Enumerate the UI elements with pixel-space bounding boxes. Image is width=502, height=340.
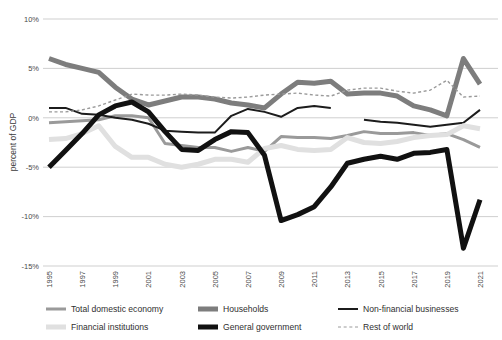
legend-swatch-icon bbox=[338, 303, 358, 315]
x-tick-label: 2021 bbox=[476, 271, 485, 288]
legend-label: Households bbox=[223, 304, 268, 314]
x-tick-label: 2019 bbox=[443, 271, 452, 288]
x-axis-tick-labels: 1995199719992001200320052007200920112013… bbox=[45, 271, 485, 288]
x-tick-label: 2001 bbox=[144, 271, 153, 288]
x-tick-label: 2007 bbox=[244, 271, 253, 288]
data-series-group bbox=[49, 59, 480, 249]
legend-item-financial-institutions[interactable]: Financial institutions bbox=[46, 318, 198, 336]
legend-label: General government bbox=[223, 322, 301, 332]
y-tick-label: -5% bbox=[26, 163, 40, 172]
legend-item-rest-of-world[interactable]: Rest of world bbox=[338, 318, 498, 336]
x-tick-label: 2013 bbox=[343, 271, 352, 288]
legend-item-households[interactable]: Households bbox=[198, 300, 338, 318]
y-tick-label: -10% bbox=[21, 212, 39, 221]
legend-label: Rest of world bbox=[363, 322, 413, 332]
x-tick-label: 2009 bbox=[277, 271, 286, 288]
legend-item-general-government[interactable]: General government bbox=[198, 318, 338, 336]
y-axis-title: percent of GDP bbox=[8, 112, 18, 171]
y-tick-label: 5% bbox=[28, 64, 39, 73]
y-tick-label: 10% bbox=[24, 15, 39, 24]
y-axis-title-text: percent of GDP bbox=[8, 112, 18, 171]
x-tick-label: 2005 bbox=[211, 271, 220, 288]
legend-label: Non-financial businesses bbox=[363, 304, 459, 314]
legend-swatch-icon bbox=[338, 321, 358, 333]
legend-row: Total domestic economyHouseholdsNon-fina… bbox=[46, 300, 498, 318]
legend-swatch-icon bbox=[46, 303, 66, 315]
x-tick-label: 1995 bbox=[45, 271, 54, 288]
y-tick-label: -15% bbox=[21, 262, 39, 271]
x-tick-label: 1999 bbox=[111, 271, 120, 288]
x-tick-label: 1997 bbox=[78, 271, 87, 288]
x-tick-label: 2017 bbox=[410, 271, 419, 288]
y-axis-tick-labels: 10%5%0%-5%-10%-15% bbox=[21, 15, 39, 271]
legend-swatch-icon bbox=[198, 303, 218, 315]
legend-label: Financial institutions bbox=[71, 322, 148, 332]
legend-swatch-icon bbox=[46, 321, 66, 333]
x-tick-label: 2015 bbox=[377, 271, 386, 288]
legend-label: Total domestic economy bbox=[71, 304, 163, 314]
chart-container: 10%5%0%-5%-10%-15% 199519971999200120032… bbox=[0, 0, 502, 340]
legend-swatch-icon bbox=[198, 321, 218, 333]
x-tick-label: 2003 bbox=[178, 271, 187, 288]
chart-plot: 10%5%0%-5%-10%-15% 199519971999200120032… bbox=[0, 0, 502, 340]
legend-row: Financial institutionsGeneral government… bbox=[46, 318, 498, 336]
chart-legend: Total domestic economyHouseholdsNon-fina… bbox=[46, 300, 498, 336]
legend-item-non-financial-businesses[interactable]: Non-financial businesses bbox=[338, 300, 498, 318]
legend-item-total-domestic-economy[interactable]: Total domestic economy bbox=[46, 300, 198, 318]
y-tick-label: 0% bbox=[28, 114, 39, 123]
x-tick-label: 2011 bbox=[310, 271, 319, 287]
